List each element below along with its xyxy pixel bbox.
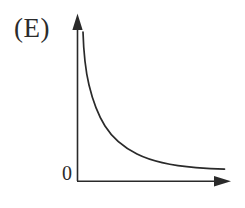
panel-label: (E) (14, 12, 50, 44)
origin-label: 0 (59, 162, 75, 184)
decay-curve-path (83, 32, 225, 169)
x-axis-arrow-icon (214, 176, 231, 186)
y-axis-arrow-icon (72, 14, 82, 31)
figure-panel: (E) 0 (0, 0, 245, 208)
